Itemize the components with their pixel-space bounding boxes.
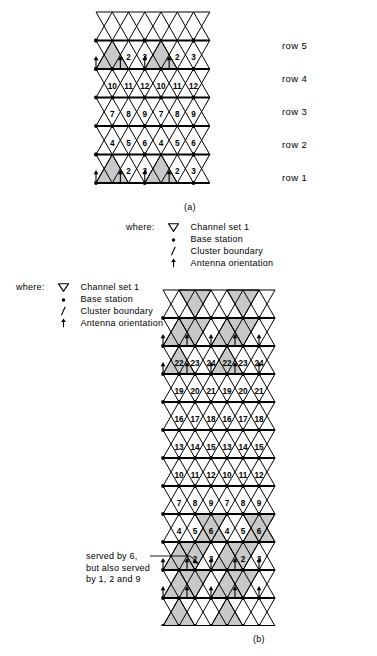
cell-number: 6 <box>191 139 196 148</box>
cell-number: 3 <box>209 555 214 564</box>
cell-number: 9 <box>209 499 214 508</box>
cell-number: 15 <box>254 443 264 452</box>
cell-number: 17 <box>238 415 248 424</box>
cell-number: 12 <box>140 82 150 91</box>
cell-number: 4 <box>177 527 182 536</box>
figure-a-caption: (a) <box>184 202 196 212</box>
cell-number: 18 <box>206 415 216 424</box>
served-by-annotation: served by 6, but also served by 1, 2 and… <box>86 551 150 586</box>
cell-number: 11 <box>124 82 133 91</box>
cell-number: 22 <box>174 359 184 368</box>
cell-number: 2 <box>175 53 180 62</box>
cell-number: 10 <box>222 471 232 480</box>
cell-number: 11 <box>173 82 182 91</box>
cell-number: 8 <box>241 499 246 508</box>
cell-number: 3 <box>142 53 147 62</box>
cell-number: 8 <box>126 110 131 119</box>
base-station-dot-icon <box>55 294 73 306</box>
annotation-leader-line <box>150 551 202 573</box>
cell-number: 20 <box>238 387 248 396</box>
cell-number: 5 <box>193 527 198 536</box>
figure-b-svg: 2223242223241920211920211617181617181314… <box>160 286 360 626</box>
cell-number: 10 <box>174 471 184 480</box>
antenna-orientation-arrow-icon <box>165 257 183 269</box>
legend-a-item-1-text: Base station <box>183 234 274 246</box>
cell-number: 4 <box>159 139 164 148</box>
figure-a-cell-layout: 23231011121011127897894564562323 <box>92 6 292 196</box>
legend-a-where-label: where: <box>126 222 165 270</box>
row-label-1: row 1 <box>282 172 307 183</box>
cell-number: 13 <box>222 443 232 452</box>
cell-number: 2 <box>126 167 131 176</box>
legend-a-item-2-text: Cluster boundary <box>183 245 274 257</box>
cell-number: 15 <box>206 443 216 452</box>
cell-number: 14 <box>190 443 200 452</box>
legend-a-item-0-text: Channel set 1 <box>183 222 274 234</box>
cell-number: 11 <box>191 471 200 480</box>
cell-number: 11 <box>239 471 248 480</box>
cell-number: 2 <box>126 53 131 62</box>
legend-b-item-2-text: Cluster boundary <box>73 305 164 317</box>
cell-number: 3 <box>142 167 147 176</box>
served-by-annotation-line-1: served by 6, <box>86 551 150 563</box>
cell-number: 12 <box>254 471 264 480</box>
cell-number: 19 <box>174 387 184 396</box>
row-label-2: row 2 <box>282 139 307 150</box>
cell-number: 18 <box>254 415 264 424</box>
cell-number: 21 <box>206 387 216 396</box>
cell-number: 13 <box>174 443 184 452</box>
legend-b-where-label: where: <box>16 282 55 330</box>
cell-number: 2 <box>175 167 180 176</box>
served-by-annotation-line-3: by 1, 2 and 9 <box>86 574 150 586</box>
legend-figure-b: where: Channel set 1 Base station Cluste… <box>16 282 163 330</box>
served-by-annotation-line-2: but also served <box>86 563 150 575</box>
antenna-orientation-arrow-icon <box>55 317 73 329</box>
cell-number: 23 <box>190 359 200 368</box>
cell-number: 2 <box>241 555 246 564</box>
cell-number: 5 <box>175 139 180 148</box>
row-label-4: row 4 <box>282 73 307 84</box>
cell-number: 9 <box>142 110 147 119</box>
row-label-3: row 3 <box>282 106 307 117</box>
channel-set-triangle-icon <box>165 222 183 234</box>
cell-number: 5 <box>241 527 246 536</box>
cell-number: 9 <box>191 110 196 119</box>
cell-number: 17 <box>190 415 200 424</box>
cell-number: 23 <box>238 359 248 368</box>
cell-number: 14 <box>238 443 248 452</box>
cell-number: 7 <box>110 110 115 119</box>
cell-number: 7 <box>159 110 164 119</box>
cell-number: 19 <box>222 387 232 396</box>
cell-number: 7 <box>225 499 230 508</box>
cell-number: 21 <box>254 387 264 396</box>
legend-b-item-0-text: Channel set 1 <box>73 282 164 294</box>
cell-number: 10 <box>108 82 118 91</box>
cell-number: 7 <box>177 499 182 508</box>
cell-number: 12 <box>189 82 199 91</box>
figure-a-svg: 23231011121011127897894564562323 <box>92 6 292 196</box>
base-station-dot-icon <box>165 234 183 246</box>
cell-number: 9 <box>257 499 262 508</box>
cell-number: 3 <box>191 53 196 62</box>
cell-number: 4 <box>110 139 115 148</box>
cell-number: 12 <box>206 471 216 480</box>
cell-number: 4 <box>225 527 230 536</box>
cell-number: 8 <box>193 499 198 508</box>
cell-number: 6 <box>142 139 147 148</box>
cell-number: 3 <box>191 167 196 176</box>
legend-b-item-1-text: Base station <box>73 294 164 306</box>
cell-number: 22 <box>222 359 232 368</box>
figure-b-cell-layout: 2223242223241920211920211617181617181314… <box>160 286 360 626</box>
cell-number: 10 <box>156 82 166 91</box>
legend-b-item-3-text: Antenna orientation <box>73 317 164 329</box>
cluster-boundary-slash-icon <box>165 245 183 257</box>
legend-a-item-3-text: Antenna orientation <box>183 257 274 269</box>
cell-number: 20 <box>190 387 200 396</box>
cell-number: 8 <box>175 110 180 119</box>
cell-number: 5 <box>126 139 131 148</box>
cell-number: 6 <box>257 527 262 536</box>
figure-b-caption: (b) <box>253 634 265 644</box>
cell-number: 16 <box>174 415 184 424</box>
cell-number: 24 <box>206 359 216 368</box>
cluster-boundary-slash-icon <box>55 305 73 317</box>
